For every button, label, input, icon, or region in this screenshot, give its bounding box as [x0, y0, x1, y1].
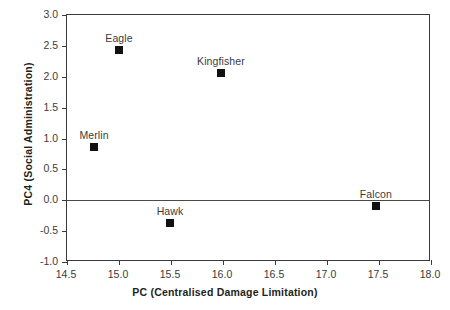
y-axis-tick [62, 139, 67, 140]
y-axis-tick-label: 0.0 [28, 193, 58, 205]
data-point-label: Merlin [79, 129, 108, 141]
x-axis-tick-label: 14.5 [46, 268, 86, 280]
data-point-label: Falcon [360, 188, 392, 200]
data-point-label: Kingfisher [197, 55, 245, 67]
x-axis-title: PC (Centralised Damage Limitation) [0, 286, 450, 298]
x-axis-tick-label: 17.5 [358, 268, 398, 280]
y-axis-tick-label: 2.0 [28, 70, 58, 82]
x-axis-tick [67, 260, 68, 265]
y-axis-tick [62, 108, 67, 109]
y-axis-tick-label: -0.5 [28, 224, 58, 236]
data-point [90, 143, 98, 151]
data-point [372, 202, 380, 210]
x-axis-tick-label: 16.5 [254, 268, 294, 280]
x-axis-tick-label: 15.0 [98, 268, 138, 280]
y-axis-tick [62, 15, 67, 16]
x-axis-tick [223, 260, 224, 265]
data-point [166, 219, 174, 227]
y-axis-tick [62, 77, 67, 78]
y-axis-tick-label: 3.0 [28, 8, 58, 20]
x-axis-tick [379, 260, 380, 265]
y-axis-tick-label: -1.0 [28, 255, 58, 267]
y-axis-tick [62, 200, 67, 201]
plot-area: EagleKingfisherMerlinHawkFalcon [66, 14, 430, 261]
x-axis-tick-label: 17.0 [306, 268, 346, 280]
x-axis-tick [119, 260, 120, 265]
x-axis-tick [171, 260, 172, 265]
scatter-chart: EagleKingfisherMerlinHawkFalcon PC4 (Soc… [0, 0, 450, 310]
data-point [217, 69, 225, 77]
data-point [115, 46, 123, 54]
y-axis-tick-label: 2.5 [28, 39, 58, 51]
y-axis-tick [62, 231, 67, 232]
data-point-label: Eagle [105, 32, 132, 44]
y-axis-tick-label: 1.5 [28, 101, 58, 113]
x-axis-tick [275, 260, 276, 265]
x-axis-tick [431, 260, 432, 265]
x-axis-tick-label: 18.0 [410, 268, 450, 280]
y-axis-tick [62, 169, 67, 170]
x-axis-tick [327, 260, 328, 265]
x-axis-tick-label: 16.0 [202, 268, 242, 280]
y-axis-tick-label: 1.0 [28, 132, 58, 144]
data-point-label: Hawk [157, 205, 184, 217]
y-axis-tick-label: 0.5 [28, 162, 58, 174]
y-axis-tick [62, 46, 67, 47]
x-axis-tick-label: 15.5 [150, 268, 190, 280]
